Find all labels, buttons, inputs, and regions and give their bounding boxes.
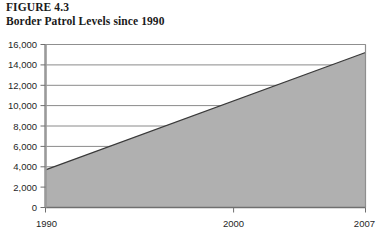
- y-label-10000: 10,000: [8, 100, 37, 111]
- y-label-14000: 14,000: [8, 59, 37, 70]
- x-label-2007: 2007: [354, 218, 375, 229]
- chart-area: 16,000 14,000 12,000 10,000 8,000 6,000 …: [0, 36, 384, 239]
- x-axis-labels: 1990 2000 2007: [36, 218, 375, 229]
- y-label-4000: 4,000: [13, 161, 37, 172]
- y-label-6000: 6,000: [13, 141, 37, 152]
- figure-number: FIGURE 4.3: [6, 1, 376, 15]
- y-axis-labels: 16,000 14,000 12,000 10,000 8,000 6,000 …: [8, 39, 37, 213]
- y-label-0: 0: [32, 202, 37, 213]
- x-tick-marks: [46, 208, 366, 213]
- area-chart-svg: 16,000 14,000 12,000 10,000 8,000 6,000 …: [0, 36, 384, 239]
- y-label-2000: 2,000: [13, 182, 37, 193]
- figure-title-block: FIGURE 4.3 Border Patrol Levels since 19…: [6, 1, 376, 28]
- y-label-16000: 16,000: [8, 39, 37, 50]
- x-label-1990: 1990: [36, 218, 57, 229]
- x-label-2000: 2000: [223, 218, 244, 229]
- y-label-8000: 8,000: [13, 121, 37, 132]
- figure-caption: Border Patrol Levels since 1990: [6, 15, 376, 29]
- y-label-12000: 12,000: [8, 80, 37, 91]
- figure-container: FIGURE 4.3 Border Patrol Levels since 19…: [0, 0, 384, 239]
